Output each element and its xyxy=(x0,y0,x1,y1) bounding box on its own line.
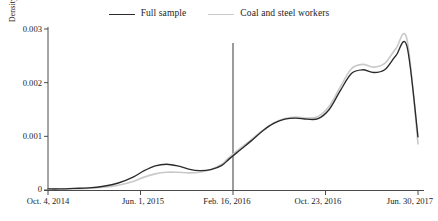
x-tick-label-jun-30-2017: Jun. 30, 2017 xyxy=(365,197,438,206)
figure-caption-clipped xyxy=(0,214,438,221)
density-chart-figure: Full sample Coal and steel workers Densi… xyxy=(0,0,438,221)
legend-label-full-sample: Full sample xyxy=(141,9,187,19)
x-tick-label-jun-1-2015: Jun. 1, 2015 xyxy=(98,197,188,206)
x-tick-label-oct-23-2016: Oct. 23, 2016 xyxy=(273,197,363,206)
axis-lines xyxy=(44,27,424,191)
y-tick-label-0.001: 0.001 xyxy=(2,132,42,141)
y-axis-title: Density xyxy=(9,0,17,22)
y-tick-label-0.003: 0.003 xyxy=(2,25,42,34)
x-tick-label-oct-4-2014: Oct. 4, 2014 xyxy=(3,197,93,206)
legend-swatch-coal-and-steel-workers-icon xyxy=(208,14,234,15)
legend-entry-coal-and-steel-workers: Coal and steel workers xyxy=(208,9,329,19)
y-tick-label-0.002: 0.002 xyxy=(2,79,42,88)
y-tick-label-0: 0 xyxy=(2,185,42,194)
legend-entry-full-sample: Full sample xyxy=(109,9,187,19)
chart-plot-area xyxy=(0,0,438,221)
legend-label-coal-and-steel-workers: Coal and steel workers xyxy=(240,9,329,19)
chart-legend: Full sample Coal and steel workers xyxy=(0,5,438,23)
y-axis-ticks xyxy=(44,29,48,190)
legend-swatch-full-sample-icon xyxy=(109,14,135,15)
x-tick-label-feb-16-2016: Feb. 16, 2016 xyxy=(182,197,272,206)
